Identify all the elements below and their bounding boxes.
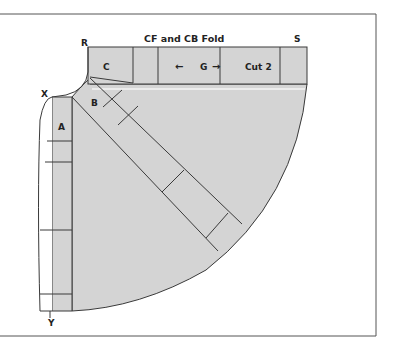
pattern-diagram: R S X Y CF and CB Fold C B A ← G → Cut 2 xyxy=(0,0,393,350)
skirt-body-piece xyxy=(72,78,307,311)
point-label-s: S xyxy=(294,34,300,44)
cut-instruction: Cut 2 xyxy=(245,62,272,72)
grain-label: G xyxy=(200,62,207,72)
arrow-right-icon: → xyxy=(212,61,220,72)
piece-label-b: B xyxy=(91,98,98,108)
arrow-left-icon: ← xyxy=(175,61,183,72)
point-label-r: R xyxy=(81,38,88,48)
title-label: CF and CB Fold xyxy=(144,33,224,44)
point-label-x: X xyxy=(41,89,48,99)
top-strip xyxy=(88,47,307,84)
point-label-y: Y xyxy=(47,318,55,328)
piece-label-c: C xyxy=(103,62,110,72)
piece-label-a: A xyxy=(58,122,65,132)
strip-a-piece xyxy=(39,97,73,318)
